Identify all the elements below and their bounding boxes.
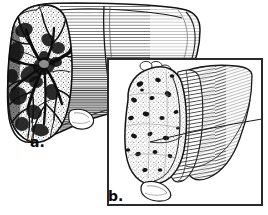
figure-root: a. bbox=[0, 0, 268, 215]
liver-illustration-canvas: a. bbox=[0, 0, 268, 215]
panel-b-inset: b. bbox=[108, 59, 268, 205]
panel-b-label: b. bbox=[108, 188, 123, 204]
panel-a-label: a. bbox=[30, 134, 45, 150]
